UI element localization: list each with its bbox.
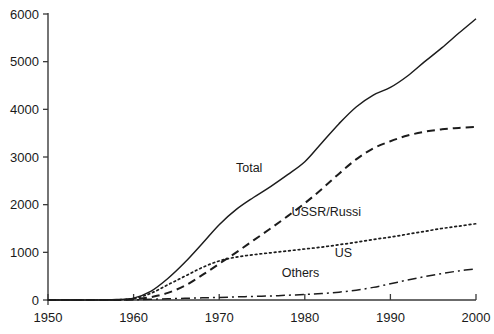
x-tick-label: 2000 xyxy=(462,310,491,325)
series-line-total xyxy=(48,19,476,300)
series-line-us xyxy=(48,224,476,300)
x-tick-label: 1950 xyxy=(34,310,63,325)
series-annotations: TotalUSSR/RussiUSOthers xyxy=(236,161,361,279)
y-axis-ticks: 0100020003000400050006000 xyxy=(10,7,48,308)
y-tick-label: 1000 xyxy=(10,245,39,260)
series-label-total: Total xyxy=(236,161,262,175)
y-tick-label: 2000 xyxy=(10,197,39,212)
y-tick-label: 4000 xyxy=(10,102,39,117)
y-tick-label: 3000 xyxy=(10,150,39,165)
series-line-ussr-russia xyxy=(48,127,476,300)
series-lines xyxy=(48,19,476,300)
series-label-others: Others xyxy=(282,266,320,280)
axes xyxy=(48,13,476,300)
y-tick-label: 0 xyxy=(32,293,39,308)
line-chart: 0100020003000400050006000 19501960197019… xyxy=(0,0,494,334)
series-label-us: US xyxy=(335,246,352,260)
y-tick-label: 5000 xyxy=(10,54,39,69)
y-tick-label: 6000 xyxy=(10,7,39,22)
x-tick-label: 1980 xyxy=(290,310,319,325)
x-tick-label: 1970 xyxy=(205,310,234,325)
chart-container: 0100020003000400050006000 19501960197019… xyxy=(0,0,494,334)
x-tick-label: 1960 xyxy=(119,310,148,325)
series-line-others xyxy=(48,269,476,300)
x-tick-label: 1990 xyxy=(376,310,405,325)
x-axis-ticks: 195019601970198019902000 xyxy=(34,294,491,325)
series-label-ussr-russi: USSR/Russi xyxy=(291,205,360,219)
